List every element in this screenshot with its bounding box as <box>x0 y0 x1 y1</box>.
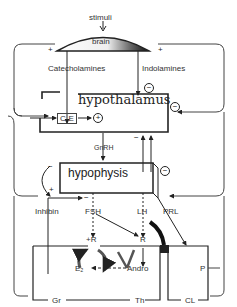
fsh-label: FSH <box>85 207 101 216</box>
negative-feedback-icon: − <box>170 102 180 112</box>
estradiol-label: E₂ <box>75 264 83 273</box>
hypothalamus-label: hypothalamus <box>78 95 171 104</box>
corpus-luteum-label: CL <box>185 296 195 305</box>
negative-feedback-icon: − <box>144 83 154 93</box>
ce-box: C-E <box>57 113 77 124</box>
plus-sign: + <box>49 186 54 194</box>
androgen-label: Andro <box>127 264 148 273</box>
granulosa-label: Gr <box>52 296 61 305</box>
minus-sign: − <box>84 194 89 202</box>
theca-label: Th <box>135 296 144 305</box>
diagram-lines <box>0 0 237 307</box>
receptor-right-label: R <box>140 235 146 244</box>
gnrh-label: GnRH <box>94 143 113 152</box>
plus-sign: + <box>48 46 53 54</box>
plus-sign: + <box>158 46 163 54</box>
progesterone-label: P <box>200 264 205 273</box>
negative-feedback-icon: − <box>160 166 170 176</box>
lh-label: LH <box>137 207 147 216</box>
positive-feedback-icon: + <box>93 113 103 123</box>
minus-sign: − <box>134 134 139 142</box>
receptor-left-label: +R <box>86 235 96 244</box>
minus-sign: − <box>48 163 53 171</box>
indolamines-label: Indolamines <box>142 64 185 73</box>
catecholamines-label: Catecholamines <box>48 64 105 73</box>
prl-label: PRL <box>163 207 179 216</box>
stimuli-label: stimuli <box>89 13 112 22</box>
inhibin-label: Inhibin <box>35 207 59 216</box>
brain-label: brain <box>92 37 110 46</box>
hypophysis-label: hypophysis <box>68 169 128 178</box>
